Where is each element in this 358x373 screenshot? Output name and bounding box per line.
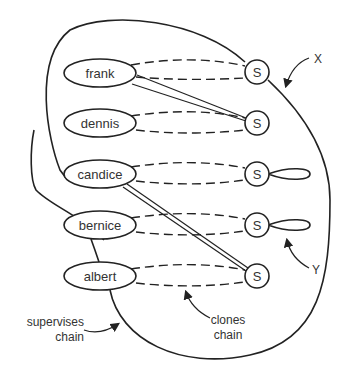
- label-supervises-2: chain: [55, 330, 84, 344]
- process-label: candice: [78, 167, 123, 182]
- y-arrow: [287, 240, 309, 268]
- process-label: dennis: [81, 116, 120, 131]
- label-clones-2: chain: [214, 328, 243, 342]
- signal-node[interactable]: S: [245, 162, 269, 186]
- supervises-arrow: [84, 324, 118, 332]
- svg-text:S: S: [253, 218, 262, 233]
- process-dennis[interactable]: dennis: [64, 109, 136, 137]
- process-frank[interactable]: frank: [64, 59, 136, 87]
- svg-text:S: S: [253, 65, 262, 80]
- process-label: albert: [84, 269, 117, 284]
- bernice-albert-link: [91, 239, 99, 262]
- x-arrow: [286, 58, 309, 86]
- process-albert[interactable]: albert: [64, 262, 136, 290]
- signal-node[interactable]: S: [245, 213, 269, 237]
- process-label: frank: [86, 66, 115, 81]
- self-loop: [268, 169, 310, 180]
- supervisor-links: [123, 75, 248, 271]
- label-supervises-1: supervises: [27, 315, 84, 329]
- clones-arrow: [186, 292, 210, 318]
- process-candice[interactable]: candice: [64, 160, 136, 188]
- svg-text:S: S: [253, 269, 262, 284]
- svg-text:S: S: [253, 116, 262, 131]
- signal-node[interactable]: S: [245, 111, 269, 135]
- label-y: Y: [312, 263, 320, 277]
- self-loop: [268, 220, 310, 231]
- process-label: bernice: [79, 218, 122, 233]
- process-diagram: frank dennis candice bernice albert S S …: [0, 0, 358, 373]
- clone-links: [131, 60, 245, 286]
- signal-node[interactable]: S: [245, 264, 269, 288]
- process-bernice[interactable]: bernice: [64, 211, 136, 239]
- signal-node[interactable]: S: [245, 60, 269, 84]
- svg-text:S: S: [253, 167, 262, 182]
- label-x: X: [314, 52, 322, 66]
- label-clones-1: clones: [211, 313, 246, 327]
